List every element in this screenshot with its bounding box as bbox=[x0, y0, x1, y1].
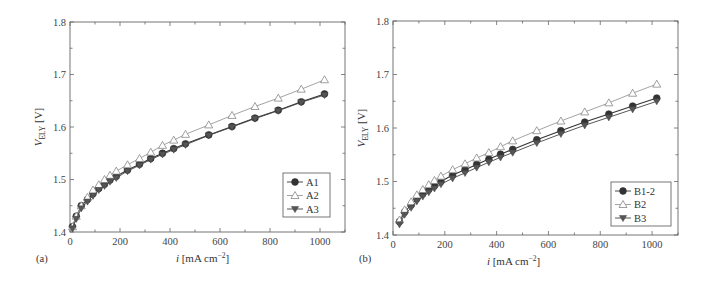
chart-panel-a: 020040060080010001.41.51.61.71.8i [mA cm… bbox=[32, 17, 345, 266]
chart-panel-b: 020040060080010001.41.51.61.71.8i [mA cm… bbox=[355, 16, 678, 268]
data-point bbox=[473, 165, 480, 171]
y-tick-label: 1.5 bbox=[53, 174, 66, 185]
legend-marker bbox=[620, 188, 627, 195]
x-tick-label: 800 bbox=[262, 236, 278, 247]
x-tick-label: 1000 bbox=[310, 236, 331, 247]
data-point bbox=[461, 170, 468, 176]
data-point bbox=[274, 94, 282, 101]
legend-label: A1 bbox=[306, 177, 319, 188]
data-point bbox=[159, 141, 167, 148]
y-tick-label: 1.4 bbox=[376, 230, 390, 241]
legend-label: B2 bbox=[634, 199, 646, 210]
data-point bbox=[205, 121, 213, 128]
data-point bbox=[321, 76, 329, 83]
data-point bbox=[461, 160, 469, 167]
y-axis-label: VELY [V] bbox=[355, 109, 370, 148]
data-point bbox=[112, 167, 120, 174]
data-point bbox=[147, 148, 155, 155]
x-tick-label: 600 bbox=[212, 236, 228, 247]
data-point bbox=[509, 137, 517, 144]
data-point bbox=[136, 155, 144, 162]
data-point bbox=[396, 222, 403, 228]
x-tick-label: 600 bbox=[541, 239, 557, 250]
x-tick-label: 800 bbox=[592, 239, 608, 250]
legend: B1-2B2B3 bbox=[611, 182, 671, 226]
panel-label: (b) bbox=[359, 253, 372, 265]
y-tick-label: 1.7 bbox=[53, 69, 66, 80]
x-tick-label: 400 bbox=[162, 236, 178, 247]
y-tick-label: 1.8 bbox=[53, 17, 66, 28]
x-tick-label: 400 bbox=[489, 239, 505, 250]
data-point bbox=[251, 103, 259, 110]
data-point bbox=[605, 99, 613, 106]
legend: A1A2A3 bbox=[283, 173, 330, 217]
data-point bbox=[533, 127, 541, 134]
legend-label: A3 bbox=[306, 204, 319, 215]
y-axis-label: VELY [V] bbox=[32, 108, 47, 147]
data-point bbox=[629, 89, 637, 96]
data-point bbox=[437, 182, 444, 188]
data-point bbox=[182, 130, 190, 137]
y-tick-label: 1.7 bbox=[376, 69, 389, 80]
y-tick-label: 1.6 bbox=[376, 123, 389, 134]
data-point bbox=[581, 108, 589, 115]
y-tick-label: 1.4 bbox=[53, 227, 67, 238]
panel-label: (a) bbox=[36, 253, 48, 265]
data-point bbox=[170, 136, 178, 143]
x-tick-label: 0 bbox=[67, 236, 72, 247]
data-point bbox=[124, 161, 132, 168]
y-tick-label: 1.5 bbox=[376, 176, 389, 187]
data-point bbox=[485, 160, 492, 166]
data-point bbox=[449, 176, 456, 182]
data-point bbox=[473, 154, 481, 161]
x-axis-label: i [mA cm−2] bbox=[487, 254, 540, 267]
data-point bbox=[297, 85, 305, 92]
data-point bbox=[557, 117, 565, 124]
data-point bbox=[533, 140, 540, 146]
legend-label: A2 bbox=[306, 190, 319, 201]
x-tick-label: 200 bbox=[437, 239, 453, 250]
data-point bbox=[430, 176, 438, 183]
legend-marker bbox=[292, 179, 299, 186]
y-tick-label: 1.6 bbox=[53, 122, 66, 133]
x-axis-label: i [mA cm−2] bbox=[176, 251, 229, 264]
legend-label: B3 bbox=[634, 213, 646, 224]
x-tick-label: 200 bbox=[112, 236, 128, 247]
legend-label: B1-2 bbox=[634, 186, 655, 197]
data-point bbox=[437, 172, 445, 179]
x-tick-label: 1000 bbox=[642, 239, 663, 250]
x-tick-label: 0 bbox=[390, 239, 395, 250]
data-point bbox=[653, 80, 661, 87]
data-point bbox=[449, 166, 457, 173]
data-point bbox=[485, 149, 493, 156]
figure: 020040060080010001.41.51.61.71.8i [mA cm… bbox=[0, 0, 711, 282]
data-point bbox=[497, 143, 505, 150]
y-tick-label: 1.8 bbox=[376, 16, 389, 27]
data-point bbox=[228, 111, 236, 118]
